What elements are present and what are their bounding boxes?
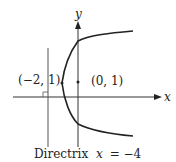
directrix-caption-word: Directrix	[34, 147, 88, 161]
focus-label: (0, 1)	[91, 74, 123, 88]
directrix-caption: Directrix x = −4	[34, 147, 142, 161]
directrix-caption-var: x	[96, 147, 103, 161]
vertex-point	[61, 82, 64, 85]
y-axis-label: y	[74, 7, 82, 21]
right-angle-marker	[43, 92, 48, 97]
vertex-label: (−2, 1)	[18, 73, 60, 87]
x-axis-label: x	[164, 90, 171, 104]
parabola-diagram: x y (−2, 1) (0, 1) Directrix x = −4	[0, 0, 176, 162]
focus-point	[77, 81, 80, 84]
y-axis-arrow-icon	[75, 21, 81, 29]
directrix-caption-eq: = −4	[110, 147, 142, 161]
x-axis-arrow-icon	[154, 94, 162, 100]
